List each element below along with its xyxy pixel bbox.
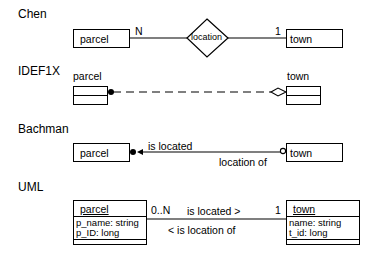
hollow-diamond-icon <box>271 88 286 96</box>
filled-dot-icon <box>108 89 114 95</box>
bachman-role-forward: is located <box>148 140 192 152</box>
class-name: parcel <box>74 201 146 217</box>
chen-cardinality-left: N <box>135 25 143 37</box>
bachman-heading: Bachman <box>18 122 69 136</box>
bachman-role-reverse: location of <box>219 156 267 168</box>
entity-label: town <box>290 33 312 45</box>
entity-label: parcel <box>80 33 109 45</box>
arrowhead-icon <box>137 149 143 155</box>
entity-label: parcel <box>80 147 109 159</box>
idef1x-entity-parcel-label: parcel <box>73 70 102 82</box>
class-name: town <box>287 201 359 217</box>
chen-relationship-label: location <box>191 32 222 42</box>
idef1x-heading: IDEF1X <box>18 64 60 78</box>
uml-multiplicity-right: 1 <box>275 204 281 216</box>
uml-class-town[interactable]: town name: string t_id: long <box>286 200 360 245</box>
class-attributes: p_name: string p_ID: long <box>74 217 146 240</box>
uml-class-parcel[interactable]: parcel p_name: string p_ID: long <box>73 200 147 245</box>
idef1x-entity-town-label: town <box>287 70 309 82</box>
bachman-entity-town[interactable]: town <box>286 143 343 162</box>
class-attributes: name: string t_id: long <box>287 217 359 240</box>
chen-entity-town[interactable]: town <box>286 29 343 48</box>
uml-heading: UML <box>18 180 43 194</box>
bachman-entity-parcel[interactable]: parcel <box>73 143 130 162</box>
idef1x-entity-parcel[interactable] <box>73 86 108 105</box>
filled-dot-icon <box>130 149 136 155</box>
chen-heading: Chen <box>18 7 47 21</box>
chen-entity-parcel[interactable]: parcel <box>73 29 130 48</box>
attribute: p_ID: long <box>76 228 146 238</box>
uml-multiplicity-left: 0..N <box>151 204 170 216</box>
hollow-circle-icon <box>280 148 285 153</box>
idef1x-entity-town[interactable] <box>286 86 321 105</box>
uml-role-forward: is located > <box>187 205 240 217</box>
uml-role-reverse: < is location of <box>168 224 235 236</box>
attribute: t_id: long <box>289 228 359 238</box>
entity-label: town <box>290 147 312 159</box>
chen-cardinality-right: 1 <box>275 25 281 37</box>
